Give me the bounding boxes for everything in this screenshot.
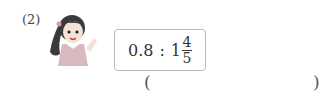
ratio-left: 0.8 bbox=[128, 41, 153, 60]
ratio-separator: : bbox=[159, 41, 164, 60]
ratio-right-whole: 1 bbox=[171, 41, 181, 60]
answer-close-paren: ) bbox=[313, 72, 320, 92]
fraction-denominator: 5 bbox=[183, 51, 192, 66]
ratio-right-fraction: 4 5 bbox=[182, 35, 192, 66]
problem-number: (2) bbox=[22, 12, 40, 27]
girl-illustration-icon bbox=[42, 8, 100, 70]
answer-open-paren: ( bbox=[144, 72, 151, 92]
ratio-expression-box: 0.8 : 1 4 5 bbox=[114, 29, 206, 71]
fraction-numerator: 4 bbox=[183, 35, 192, 50]
